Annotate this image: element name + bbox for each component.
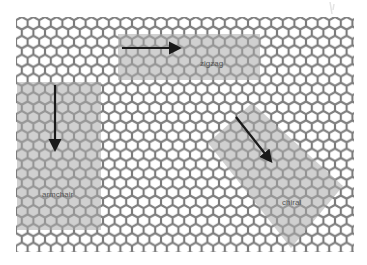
armchair-label: armchair [42, 190, 73, 199]
region-zigzag: zigzag [118, 34, 260, 80]
zigzag-label: zigzag [200, 59, 223, 68]
graphene-lattice-figure: zigzag armchair chiral [0, 0, 367, 265]
chiral-label: chiral [282, 198, 301, 207]
armchair-highlight [17, 82, 101, 230]
artifact-mark [330, 2, 334, 14]
region-armchair: armchair [17, 82, 101, 230]
zigzag-highlight [118, 34, 260, 80]
